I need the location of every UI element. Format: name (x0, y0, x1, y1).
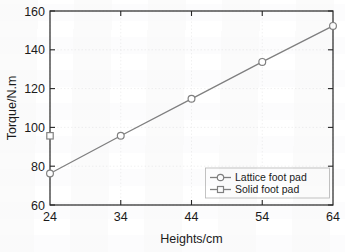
y-tick-label: 80 (31, 160, 45, 174)
legend-label: Lattice foot pad (235, 171, 307, 183)
y-axis-title: Torque/N.m (5, 76, 19, 141)
data-point-marker (47, 170, 54, 177)
y-tick-label: 100 (24, 121, 45, 135)
data-point-marker (188, 95, 195, 102)
data-point-marker (117, 132, 124, 139)
data-point-marker (47, 133, 53, 139)
x-tick-label: 34 (114, 210, 128, 224)
x-axis-title: Heights/cm (160, 232, 223, 246)
y-tick-label: 140 (24, 43, 45, 57)
x-tick-label: 44 (185, 210, 199, 224)
circle-marker-icon (217, 174, 223, 180)
x-tick-label: 64 (326, 210, 340, 224)
x-tick-label: 54 (255, 210, 269, 224)
y-tick-label: 120 (24, 82, 45, 96)
series-solid-foot-pad (47, 133, 53, 139)
torque-vs-height-chart: 60 80 100 120 140 160 24 34 44 54 64 Hei… (0, 0, 345, 252)
legend: Lattice foot pad Solid foot pad (206, 168, 330, 198)
square-marker-icon (218, 187, 224, 193)
x-tick-label: 24 (43, 210, 57, 224)
y-tick-label: 160 (24, 5, 45, 19)
data-point-marker (330, 23, 337, 30)
legend-label: Solid foot pad (235, 183, 299, 195)
data-point-marker (259, 59, 266, 66)
